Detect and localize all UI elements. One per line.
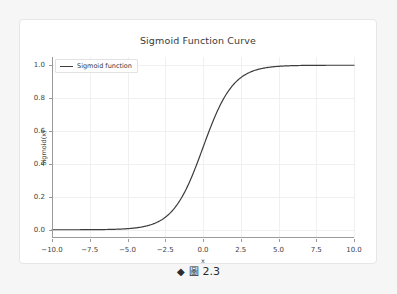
y-tick	[49, 197, 52, 198]
chart-legend[interactable]: Sigmoid function	[55, 59, 138, 73]
legend-line-swatch	[60, 66, 73, 67]
x-tick-label: −5.0	[119, 246, 136, 254]
figure-label-glyph: 圖	[189, 267, 199, 277]
figure-caption: ◆ 圖 2.3	[0, 266, 397, 277]
figure-card: Sigmoid Function Curve x Sigmoid(x) Sigm…	[19, 19, 377, 264]
y-tick-label: 0.8	[34, 94, 45, 102]
legend-label: Sigmoid function	[77, 62, 132, 70]
page-root: Sigmoid Function Curve x Sigmoid(x) Sigm…	[0, 0, 397, 294]
y-tick-label: 0.6	[34, 127, 45, 135]
y-tick	[49, 230, 52, 231]
sigmoid-curve	[52, 57, 354, 238]
x-tick	[165, 239, 166, 242]
x-tick	[316, 239, 317, 242]
x-tick-label: 7.5	[311, 246, 322, 254]
figure-number: 2.3	[203, 266, 221, 277]
y-tick	[49, 164, 52, 165]
x-tick	[203, 239, 204, 242]
x-tick-label: 2.5	[235, 246, 246, 254]
diamond-icon: ◆	[177, 267, 185, 277]
plot-area	[52, 57, 354, 238]
x-tick-label: 0.0	[197, 246, 208, 254]
gridline	[354, 57, 355, 238]
y-tick-label: 0.4	[34, 160, 45, 168]
x-tick-label: 5.0	[273, 246, 284, 254]
x-tick-label: −10.0	[41, 246, 62, 254]
y-tick-label: 0.2	[34, 193, 45, 201]
y-tick-label: 0.0	[34, 226, 45, 234]
y-tick-label: 1.0	[34, 61, 45, 69]
x-tick	[241, 239, 242, 242]
x-tick	[279, 239, 280, 242]
y-tick	[49, 65, 52, 66]
axis-spine-bottom	[52, 237, 354, 238]
y-tick	[49, 131, 52, 132]
x-tick	[52, 239, 53, 242]
x-tick	[354, 239, 355, 242]
chart-title: Sigmoid Function Curve	[20, 35, 376, 46]
axis-spine-left	[52, 57, 53, 238]
x-tick-label: −7.5	[81, 246, 98, 254]
y-tick	[49, 98, 52, 99]
x-tick-label: 10.0	[346, 246, 362, 254]
x-tick	[128, 239, 129, 242]
x-tick	[90, 239, 91, 242]
x-axis-label: x	[52, 257, 354, 265]
chart-axes: x Sigmoid(x) Sigmoid function −10.0−7.5−…	[52, 57, 354, 238]
x-tick-label: −2.5	[157, 246, 174, 254]
